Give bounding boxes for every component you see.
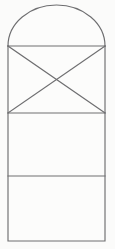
panel-body-fill bbox=[8, 5, 105, 241]
figure-fill-group bbox=[8, 5, 105, 241]
arched-panel-figure bbox=[0, 0, 115, 249]
drawing-canvas: Line drawing of a vertical rectangle cap… bbox=[0, 0, 115, 249]
